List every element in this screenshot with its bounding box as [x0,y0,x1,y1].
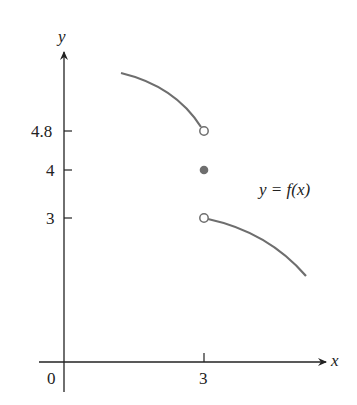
open-point-3 [200,214,208,222]
x-tick-label-3: 3 [199,369,208,388]
origin-label: 0 [47,369,56,388]
y-axis-label: y [56,27,66,46]
left-branch-curve [121,73,201,127]
function-label: y = f(x) [257,180,310,199]
function-graph: y x 0 3 4.8 4 3 y = f(x) [0,0,357,405]
open-point-4.8 [200,127,208,135]
x-axis-label: x [330,351,339,370]
y-tick-label-4.8: 4.8 [31,122,52,141]
filled-point-4 [200,166,209,175]
y-tick-label-3: 3 [46,209,55,228]
right-branch-curve [208,219,306,276]
y-tick-label-4: 4 [46,161,55,180]
